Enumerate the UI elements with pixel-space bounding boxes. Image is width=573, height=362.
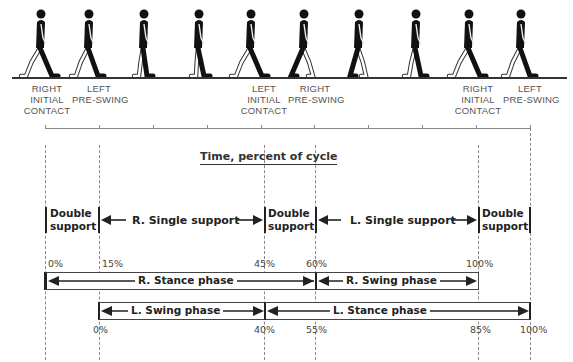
- timeline-axis: [45, 128, 530, 129]
- left-pct-0: 0%: [93, 324, 108, 335]
- timeline-tick: [314, 125, 315, 129]
- event-label-left-pre-swing: LEFTPRE-SWING: [72, 83, 126, 105]
- l-single-support-label: L. Single support: [350, 214, 456, 227]
- walking-figure-icon: [71, 10, 104, 77]
- left-pct-100: 100%: [520, 324, 547, 335]
- timeline-tick: [368, 125, 369, 129]
- walking-figure-icon: [404, 10, 427, 77]
- walking-figure-icon: [291, 10, 313, 77]
- event-label-left-initial-contact: LEFTINITIALCONTACT: [239, 83, 289, 116]
- walking-figure-icon: [449, 10, 486, 77]
- support-divider: [45, 207, 47, 233]
- support-divider: [529, 207, 531, 233]
- timeline-tick: [207, 125, 208, 129]
- walking-figure-icon: [21, 10, 58, 77]
- r-single-support-label: R. Single support: [132, 214, 240, 227]
- l-swing-label: L. Swing phase: [128, 304, 223, 316]
- left-pct-85: 85%: [470, 324, 491, 335]
- right-pct-60: 60%: [306, 258, 327, 269]
- event-label-left-pre-swing-2: LEFTPRE-SWING: [503, 83, 557, 105]
- left-pct-55: 55%: [306, 324, 327, 335]
- timeline-tick: [99, 125, 100, 129]
- right-pct-15: 15%: [102, 258, 123, 269]
- right-pct-45: 45%: [254, 258, 275, 269]
- r-swing-label: R. Swing phase: [343, 274, 440, 286]
- walking-figure-icon: [231, 10, 268, 77]
- double-support-label-2: Doublesupport: [268, 207, 314, 233]
- timeline-tick: [153, 125, 154, 129]
- walking-figure-icon: [134, 10, 153, 77]
- walking-figure-icon: [503, 10, 536, 77]
- event-label-right-initial-contact-2: RIGHTINITIALCONTACT: [453, 83, 503, 116]
- l-stance-phase-bar: L. Stance phase: [264, 302, 531, 320]
- guide-right-initial-contact: [45, 145, 46, 360]
- r-stance-label: R. Stance phase: [135, 274, 237, 286]
- timeline-tick: [261, 125, 262, 129]
- support-divider: [264, 207, 266, 233]
- timeline-title: Time, percent of cycle: [200, 150, 337, 165]
- gait-figures: [0, 0, 573, 80]
- walking-figure-icon: [350, 10, 366, 77]
- event-label-right-pre-swing: RIGHTPRE-SWING: [288, 83, 342, 105]
- r-stance-phase-bar: R. Stance phase: [44, 272, 316, 290]
- event-label-right-initial-contact: RIGHTINITIALCONTACT: [22, 83, 72, 116]
- ground-line: [12, 77, 567, 79]
- support-divider: [478, 207, 480, 233]
- double-support-label-3: Doublesupport: [482, 207, 528, 233]
- double-support-label-1: Doublesupport: [50, 207, 96, 233]
- left-pct-40: 40%: [254, 324, 275, 335]
- right-pct-100: 100%: [466, 258, 493, 269]
- timeline-tick: [476, 125, 477, 129]
- timeline-tick: [422, 125, 423, 129]
- right-pct-0: 0%: [48, 258, 63, 269]
- l-stance-label: L. Stance phase: [330, 304, 430, 316]
- l-swing-phase-bar: L. Swing phase: [98, 302, 265, 320]
- r-swing-phase-bar: R. Swing phase: [315, 272, 479, 290]
- walking-figure-icon: [191, 10, 210, 77]
- timeline-tick: [45, 125, 46, 129]
